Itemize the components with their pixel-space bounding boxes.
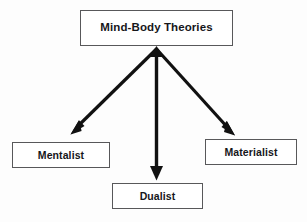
node-materialist[interactable]: Materialist bbox=[205, 139, 297, 165]
node-label-dualist: Dualist bbox=[140, 191, 176, 202]
node-label-mentalist: Mentalist bbox=[38, 150, 84, 161]
edge-root-to-materialist bbox=[157, 49, 236, 136]
edge-root-to-mentalist bbox=[71, 49, 157, 135]
node-label-materialist: Materialist bbox=[224, 147, 277, 158]
node-mind-body-theories[interactable]: Mind-Body Theories bbox=[80, 10, 233, 46]
node-dualist[interactable]: Dualist bbox=[112, 183, 203, 209]
edge-convergence-apex bbox=[149, 46, 164, 57]
node-mentalist[interactable]: Mentalist bbox=[12, 142, 110, 168]
edge-root-to-dualist bbox=[150, 49, 163, 181]
node-label-root: Mind-Body Theories bbox=[100, 22, 212, 34]
diagram-canvas: Mind-Body Theories Mentalist Dualist Mat… bbox=[0, 0, 307, 222]
